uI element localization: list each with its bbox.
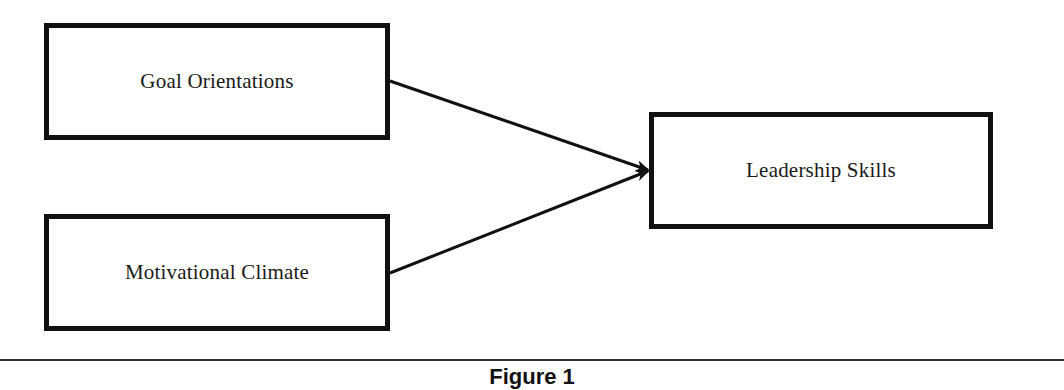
node-label: Leadership Skills <box>746 158 896 183</box>
node-label: Goal Orientations <box>140 69 293 94</box>
arrow-climate-to-leadership <box>390 171 648 273</box>
divider-rule <box>0 359 1064 361</box>
node-goal-orientations: Goal Orientations <box>44 23 390 140</box>
node-motivational-climate: Motivational Climate <box>44 214 390 331</box>
node-leadership-skills: Leadership Skills <box>649 112 993 229</box>
node-label: Motivational Climate <box>125 260 309 285</box>
figure-caption: Figure 1 <box>0 364 1064 390</box>
arrow-goal-to-leadership <box>390 81 648 170</box>
